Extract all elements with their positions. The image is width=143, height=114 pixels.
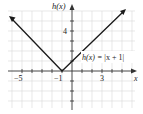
x-axis (8, 69, 137, 74)
graph-canvas: h(x) x 4 −5 −1 3 h(x) = |x + 1| (0, 0, 143, 114)
function-label: h(x) = |x + 1| (82, 53, 124, 62)
y-axis-arrow-icon (70, 4, 75, 10)
x-axis-label: x (133, 74, 138, 83)
x-axis-arrow-icon (131, 69, 137, 74)
y-axis (70, 4, 75, 110)
y-tick-4: 4 (63, 27, 67, 36)
x-tick-neg1: −1 (54, 74, 63, 83)
x-tick-neg5: −5 (14, 74, 23, 83)
function-label-prefix: h(x) = (82, 53, 104, 62)
y-axis-label: h(x) (52, 1, 66, 11)
function-label-body: |x + 1| (104, 53, 124, 62)
x-tick-3: 3 (100, 74, 104, 83)
